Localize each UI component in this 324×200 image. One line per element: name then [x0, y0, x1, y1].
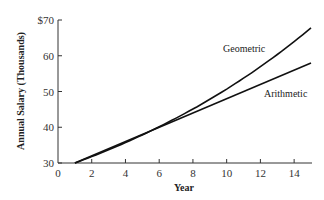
- x-tick-label: 14: [289, 167, 301, 179]
- x-tick-label: 2: [89, 167, 95, 179]
- x-tick-label: 10: [221, 167, 233, 179]
- x-ticks: 02468101214: [55, 159, 300, 179]
- y-axis-title: Annual Salary (Thousands): [15, 32, 27, 150]
- x-tick-label: 4: [123, 167, 129, 179]
- y-tick-label: 50: [43, 86, 55, 98]
- y-tick-label: 40: [43, 121, 55, 133]
- y-tick-label: $70: [38, 14, 55, 26]
- label-geometric: Geometric: [223, 43, 266, 54]
- x-tick-label: 8: [190, 167, 196, 179]
- x-axis-title: Year: [174, 182, 195, 193]
- y-tick-label: 60: [43, 50, 55, 62]
- salary-chart: 30405060$70 02468101214 Geometric Arithm…: [0, 0, 324, 200]
- label-arithmetic: Arithmetic: [264, 88, 308, 99]
- x-tick-label: 12: [255, 167, 266, 179]
- x-tick-label: 6: [156, 167, 162, 179]
- x-tick-label: 0: [55, 167, 61, 179]
- y-tick-label: 30: [43, 157, 55, 169]
- arithmetic-line: [75, 63, 311, 163]
